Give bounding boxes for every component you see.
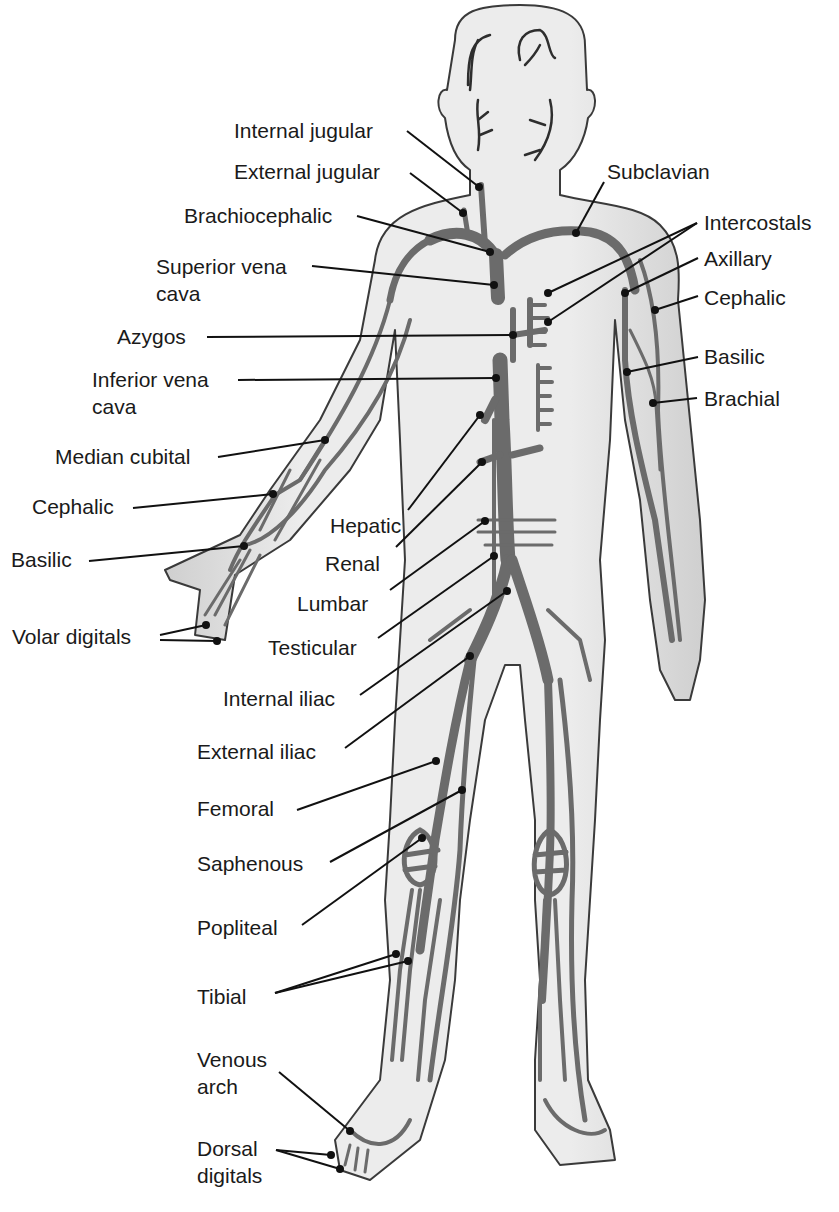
label-dorsal-digitals: Dorsal digitals bbox=[197, 1135, 262, 1189]
label-popliteal: Popliteal bbox=[197, 914, 278, 941]
label-volar-digitals: Volar digitals bbox=[12, 623, 131, 650]
label-tibial: Tibial bbox=[197, 983, 246, 1010]
label-internal-iliac: Internal iliac bbox=[223, 685, 335, 712]
label-line-1: Dorsal bbox=[197, 1135, 262, 1162]
superior-vena-cava bbox=[496, 255, 498, 298]
label-testicular: Testicular bbox=[268, 634, 357, 661]
label-line-2: cava bbox=[156, 280, 287, 307]
label-hepatic: Hepatic bbox=[330, 512, 401, 539]
inferior-vena-cava bbox=[500, 360, 508, 560]
label-brachiocephalic: Brachiocephalic bbox=[184, 202, 332, 229]
label-saphenous: Saphenous bbox=[197, 850, 303, 877]
label-line-1: Superior vena bbox=[156, 253, 287, 280]
label-cephalic-left: Cephalic bbox=[32, 493, 114, 520]
label-basilic-right: Basilic bbox=[704, 343, 765, 370]
label-intercostals: Intercostals bbox=[704, 209, 811, 236]
label-inferior-vena-cava: Inferior vena cava bbox=[92, 366, 209, 420]
label-axillary: Axillary bbox=[704, 245, 772, 272]
label-brachial: Brachial bbox=[704, 385, 780, 412]
label-line-1: Inferior vena bbox=[92, 366, 209, 393]
label-venous-arch: Venous arch bbox=[197, 1046, 267, 1100]
label-internal-jugular: Internal jugular bbox=[234, 117, 373, 144]
label-median-cubital: Median cubital bbox=[55, 443, 190, 470]
label-superior-vena-cava: Superior vena cava bbox=[156, 253, 287, 307]
label-lumbar: Lumbar bbox=[297, 590, 368, 617]
label-line-2: cava bbox=[92, 393, 209, 420]
label-external-jugular: External jugular bbox=[234, 158, 380, 185]
label-line-2: digitals bbox=[197, 1162, 262, 1189]
label-renal: Renal bbox=[325, 550, 380, 577]
label-femoral: Femoral bbox=[197, 795, 274, 822]
venous-system-diagram: Internal jugular External jugular Brachi… bbox=[0, 0, 839, 1212]
label-line-1: Venous bbox=[197, 1046, 267, 1073]
label-basilic-left: Basilic bbox=[11, 546, 72, 573]
label-line-2: arch bbox=[197, 1073, 267, 1100]
label-cephalic-right: Cephalic bbox=[704, 284, 786, 311]
label-external-iliac: External iliac bbox=[197, 738, 316, 765]
label-azygos: Azygos bbox=[117, 323, 186, 350]
body-illustration bbox=[0, 0, 839, 1212]
label-subclavian: Subclavian bbox=[607, 158, 710, 185]
